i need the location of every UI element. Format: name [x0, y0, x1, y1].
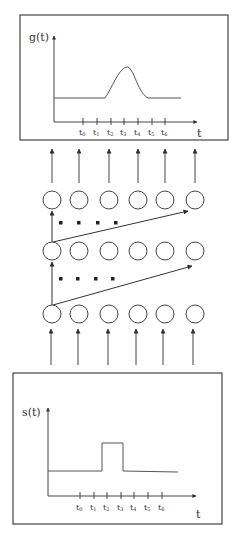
input-signal-pulse [48, 443, 178, 472]
node [186, 305, 204, 323]
svg-text:t6: t6 [161, 128, 167, 137]
node [129, 191, 147, 209]
node [43, 242, 61, 260]
svg-text:t0: t0 [76, 503, 82, 512]
svg-text:t0: t0 [79, 128, 85, 137]
node [70, 242, 88, 260]
svg-text:t5: t5 [148, 128, 154, 137]
node [156, 242, 174, 260]
connections-lower [52, 262, 192, 305]
svg-text:t4: t4 [130, 503, 136, 512]
input-x-label: t [196, 508, 201, 521]
network-layer-top [43, 191, 204, 209]
node [100, 191, 118, 209]
neural-network-diagram: g(t) t t0 t1 t2 t3 t4 t5 t6 [0, 0, 238, 536]
svg-text:t3: t3 [120, 128, 126, 137]
output-signal-curve [54, 67, 181, 98]
svg-text:t3: t3 [117, 503, 123, 512]
output-tick-labels: t0 t1 t2 t3 t4 t5 t6 [79, 128, 167, 137]
svg-text:t2: t2 [107, 128, 113, 137]
network-layer-bottom [43, 305, 204, 323]
output-plot: g(t) t t0 t1 t2 t3 t4 t5 t6 [20, 15, 228, 140]
svg-text:t2: t2 [103, 503, 109, 512]
node [100, 305, 118, 323]
skip-dots-upper [59, 221, 118, 225]
node [43, 305, 61, 323]
node [70, 305, 88, 323]
input-y-label: s(t) [22, 406, 41, 419]
svg-text:t6: t6 [158, 503, 164, 512]
node [100, 242, 118, 260]
node [186, 242, 204, 260]
skip-dots-lower [59, 277, 115, 281]
node [43, 191, 61, 209]
input-plot: s(t) t t0 t1 t2 t3 t4 t5 t6 [13, 373, 222, 524]
output-arrows [52, 149, 195, 183]
svg-text:t4: t4 [134, 128, 140, 137]
node [129, 242, 147, 260]
svg-text:t1: t1 [93, 128, 99, 137]
node [186, 191, 204, 209]
input-plot-frame [13, 373, 222, 524]
connections-upper [52, 211, 188, 242]
node [129, 305, 147, 323]
svg-text:t1: t1 [90, 503, 96, 512]
svg-text:t5: t5 [144, 503, 150, 512]
network-layer-middle [43, 242, 204, 260]
node [156, 191, 174, 209]
output-x-label: t [197, 127, 202, 140]
input-arrows [51, 329, 193, 365]
output-y-label: g(t) [29, 31, 49, 44]
node [70, 191, 88, 209]
node [156, 305, 174, 323]
input-tick-labels: t0 t1 t2 t3 t4 t5 t6 [76, 503, 164, 512]
